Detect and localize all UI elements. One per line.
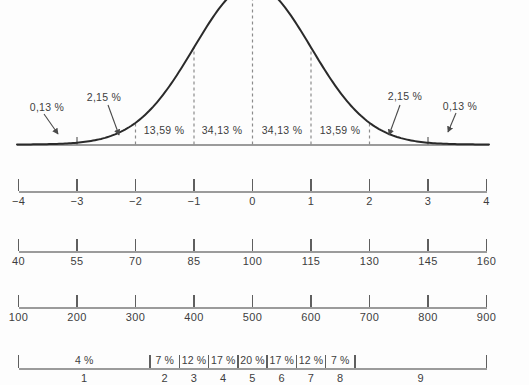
scale-tick [252,179,254,191]
scale-tick-label: 115 [302,255,320,267]
stanine-region-label: 2 [162,372,168,384]
stanine-tick [237,355,239,368]
stanine-region-label: 3 [191,372,197,384]
scale-line [19,191,487,193]
stanine-tick [296,355,298,368]
scale-tick [252,295,254,307]
scale-tick [193,295,195,307]
stanine-region-label: 4 [220,372,226,384]
scale-tick-label: 100 [9,311,28,323]
scale-tick [76,179,78,191]
scale-tick-label: −4 [12,195,25,207]
percent-label-band-right1: 34,13 % [262,124,303,136]
scale-tick [369,295,371,307]
percent-label-tail-left: 0,13 % [30,101,65,113]
stanine-percent-label: 17 % [269,354,294,366]
scale-tick-label: 600 [301,311,320,323]
annotation-arrow [448,113,456,132]
scale-tick [427,295,429,307]
scale-tick [252,239,254,251]
scale-tick [310,295,312,307]
scale-tick-label: 0 [249,195,255,207]
percent-label-2sd-right: 2,15 % [388,90,423,102]
scale-tick-label: 4 [483,195,489,207]
percent-label-band-right2: 13,59 % [320,124,361,136]
stanine-percent-label: 12 % [182,354,207,366]
scale-line [19,251,487,253]
stanine-region-label: 8 [337,372,343,384]
scale-tick-label: 800 [418,311,437,323]
scale-tick [193,179,195,191]
stanine-region-label: 1 [81,372,87,384]
scale-tick [427,179,429,191]
stanine-tick [208,355,210,368]
stanine-line [19,368,487,370]
scale-tick [427,239,429,251]
percent-label-tail-right: 0,13 % [443,100,478,112]
scale-tick-label: 130 [360,255,379,267]
scale-tick-label: 400 [184,311,203,323]
scale-tick [310,179,312,191]
stanine-percent-label: 12 % [299,354,324,366]
stanine-percent-label: 17 % [211,354,236,366]
scale-tick [18,179,20,191]
stanine-tick [354,355,356,368]
scale-tick [18,295,20,307]
stanine-percent-label: 7 % [331,354,350,366]
scale-tick [486,295,488,307]
percent-label-band-left2: 13,59 % [144,124,185,136]
scale-tick [193,239,195,251]
scale-tick [369,239,371,251]
stanine-percent-label: 7 % [155,354,174,366]
scale-tick [486,179,488,191]
scale-tick-label: 85 [188,255,201,267]
stanine-region-label: 6 [279,372,285,384]
scale-tick-label: 3 [425,195,431,207]
stanine-region-label: 7 [308,372,314,384]
scale-tick-label: 55 [71,255,84,267]
stanine-percent-label: 20 % [240,354,265,366]
scale-tick-label: 2 [366,195,372,207]
scale-tick-label: −2 [129,195,142,207]
stanine-tick [179,355,181,368]
scale-tick-label: 500 [243,311,262,323]
scale-tick-label: 900 [477,311,496,323]
scale-tick [18,239,20,251]
annotation-arrow [389,105,400,135]
scale-tick-label: 100 [243,255,262,267]
scale-tick-label: 160 [477,255,496,267]
scale-tick [135,179,137,191]
scale-tick [76,295,78,307]
percent-label-2sd-left: 2,15 % [87,91,122,103]
scale-tick [135,239,137,251]
stanine-region-label: 9 [417,372,423,384]
stanine-tick [18,355,20,368]
scale-tick-label: 700 [360,311,379,323]
scale-tick-label: 1 [308,195,314,207]
scale-tick-label: −3 [70,195,83,207]
scale-tick [76,239,78,251]
scale-tick-label: 200 [67,311,86,323]
percent-label-band-left1: 34,13 % [202,124,243,136]
normal-distribution-figure: 0,13 % 2,15 % 13,59 % 34,13 % 34,13 % 13… [0,0,529,385]
scale-tick-label: 70 [129,255,142,267]
stanine-percent-label: 4 % [75,354,94,366]
scale-tick-label: 145 [418,255,437,267]
scale-tick [486,239,488,251]
scale-tick [369,179,371,191]
scale-line [19,307,487,309]
stanine-region-label: 5 [249,372,255,384]
scale-tick [135,295,137,307]
scale-tick-label: 40 [12,255,25,267]
scale-tick-label: −1 [187,195,200,207]
scale-tick-label: 300 [126,311,145,323]
stanine-tick [266,355,268,368]
stanine-tick [149,355,151,368]
annotation-arrow [108,105,119,135]
stanine-tick [325,355,327,368]
scale-tick [310,239,312,251]
annotation-arrow [44,114,58,134]
stanine-tick [486,355,488,368]
